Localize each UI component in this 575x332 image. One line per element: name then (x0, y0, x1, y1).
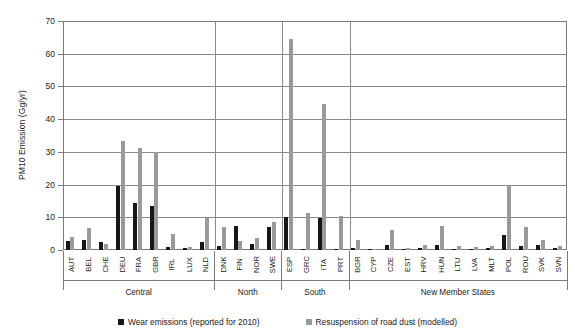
bar-wear-irl (166, 247, 170, 250)
group-boundary-tick (567, 251, 568, 290)
bar-resuspension-aut (70, 237, 74, 250)
bar-wear-svk (536, 245, 540, 250)
bar-wear-bgr (351, 248, 355, 250)
bar-group-est (399, 21, 416, 250)
bar-group-hrv (416, 21, 433, 250)
bar-group-esp (281, 21, 298, 250)
bar-resuspension-lux (188, 247, 192, 250)
bar-resuspension-bgr (356, 240, 360, 250)
chart-figure: PM10 Emission (Gg/yr) 010203040506070 AU… (0, 0, 575, 332)
bar-wear-prt (334, 249, 338, 250)
bar-group-ltu (449, 21, 466, 250)
legend-item-resuspension: Resuspension of road dust (modelled) (306, 317, 458, 327)
bar-wear-swe (267, 227, 271, 250)
bar-resuspension-esp (289, 39, 293, 250)
bar-group-aut (63, 21, 80, 250)
y-axis-title: PM10 Emission (Gg/yr) (17, 50, 27, 220)
bar-group-swe (265, 21, 282, 250)
bar-group-cyp (365, 21, 382, 250)
bar-resuspension-dnk (222, 227, 226, 250)
y-axis-tick-label: 70 (31, 17, 55, 25)
bar-group-grc (298, 21, 315, 250)
bar-resuspension-fra (138, 148, 142, 250)
y-axis-tick-label: 40 (31, 115, 55, 123)
bar-wear-grc (301, 249, 305, 250)
bar-wear-hrv (418, 248, 422, 250)
y-axis-tick-label: 60 (31, 50, 55, 58)
bar-wear-pol (502, 235, 506, 250)
x-axis-country-labels: AUTBELCHEDEUFRAGBRIRLLUXNLDDNKFINNORSWEE… (63, 251, 567, 280)
group-label-central: Central (63, 281, 214, 303)
bar-resuspension-gbr (154, 152, 158, 250)
bar-group-lux (181, 21, 198, 250)
y-axis-tick-label: 0 (31, 246, 55, 254)
bar-group-fin (231, 21, 248, 250)
group-label-text: South (304, 288, 325, 297)
bar-wear-lux (183, 248, 187, 250)
bar-wear-aut (66, 241, 70, 250)
legend-label: Resuspension of road dust (modelled) (316, 317, 458, 327)
bar-group-bel (80, 21, 97, 250)
legend-item-wear: Wear emissions (reported for 2010) (118, 317, 260, 327)
bar-resuspension-swe (272, 222, 276, 250)
bar-wear-cze (385, 245, 389, 250)
bar-wear-dnk (217, 246, 221, 250)
bar-resuspension-prt (339, 216, 343, 250)
bar-wear-ltu (452, 249, 456, 250)
bar-series-container (63, 21, 567, 250)
bar-resuspension-lva (474, 247, 478, 250)
bar-wear-mlt (486, 248, 490, 250)
bar-resuspension-mlt (490, 246, 494, 250)
bar-resuspension-nor (255, 238, 259, 250)
x-axis-label-svn: SVN (544, 251, 573, 280)
bar-wear-nld (200, 242, 204, 250)
bar-group-cze (382, 21, 399, 250)
bar-group-nld (197, 21, 214, 250)
bar-resuspension-rou (524, 227, 528, 250)
bar-group-lva (466, 21, 483, 250)
bar-group-deu (113, 21, 130, 250)
bar-group-bgr (349, 21, 366, 250)
legend-swatch-icon (118, 319, 124, 325)
bar-wear-rou (519, 246, 523, 250)
group-label-band: CentralNorthSouthNew Member States (63, 280, 567, 302)
bar-wear-nor (250, 244, 254, 250)
bar-resuspension-ita (322, 104, 326, 250)
group-label-new-member-states: New Member States (349, 281, 567, 303)
bar-resuspension-grc (306, 213, 310, 250)
bar-wear-hun (435, 245, 439, 250)
bar-resuspension-che (104, 244, 108, 250)
bar-wear-che (99, 242, 103, 251)
bar-group-dnk (214, 21, 231, 250)
group-label-text: Central (125, 288, 151, 297)
group-label-text: New Member States (421, 288, 495, 297)
group-label-south: South (281, 281, 348, 303)
bar-wear-bel (82, 240, 86, 250)
bar-group-rou (517, 21, 534, 250)
y-axis-tick-label: 10 (31, 213, 55, 221)
bar-resuspension-hun (440, 226, 444, 250)
chart-legend: Wear emissions (reported for 2010)Resusp… (0, 314, 575, 330)
bar-resuspension-svn (558, 246, 562, 250)
bar-wear-est (402, 249, 406, 250)
bar-wear-svn (553, 248, 557, 250)
bar-wear-lva (469, 249, 473, 250)
bar-resuspension-hrv (423, 245, 427, 250)
group-label-north: North (214, 281, 281, 303)
bar-resuspension-bel (87, 228, 91, 250)
bar-resuspension-cyp (373, 249, 377, 250)
bar-group-ita (315, 21, 332, 250)
y-axis-tick-label: 50 (31, 82, 55, 90)
bar-wear-cyp (368, 249, 372, 250)
bar-resuspension-fin (238, 241, 242, 250)
bar-resuspension-irl (171, 234, 175, 250)
bar-wear-fin (234, 226, 238, 250)
bar-group-prt (332, 21, 349, 250)
y-axis-tick-label: 20 (31, 181, 55, 189)
legend-label: Wear emissions (reported for 2010) (128, 317, 260, 327)
bar-group-gbr (147, 21, 164, 250)
bar-group-pol (500, 21, 517, 250)
bar-resuspension-ltu (457, 246, 461, 250)
bar-group-hun (433, 21, 450, 250)
bar-wear-esp (284, 217, 288, 250)
